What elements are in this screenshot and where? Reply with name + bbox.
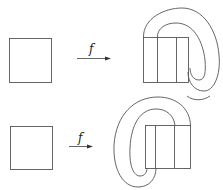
top-map-label: f xyxy=(88,42,96,56)
top-source-square xyxy=(10,39,52,83)
top-horseshoe-image xyxy=(143,8,219,91)
bottom-source-square xyxy=(11,127,53,170)
bottom-horseshoe-image xyxy=(114,96,210,187)
top-map-arrow xyxy=(77,57,111,61)
horseshoe-diagram: f f xyxy=(0,0,223,190)
bottom-map-label: f xyxy=(77,131,85,145)
bottom-row: f xyxy=(11,96,211,187)
bottom-map-arrow xyxy=(69,145,93,149)
top-row: f xyxy=(10,8,220,91)
